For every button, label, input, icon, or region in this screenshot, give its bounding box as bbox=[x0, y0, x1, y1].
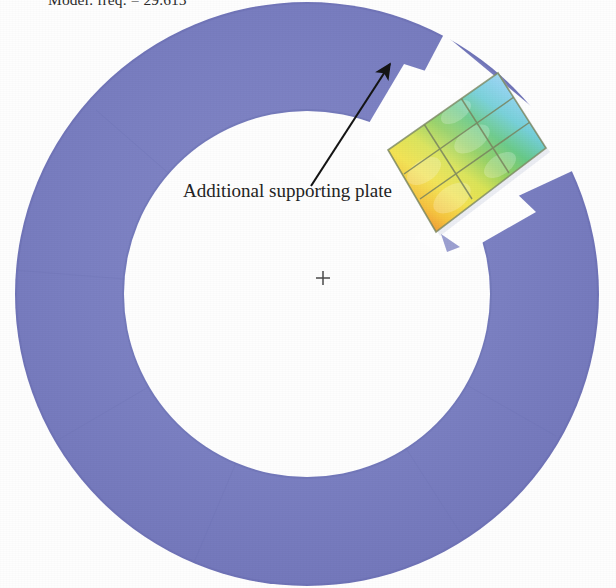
figure-canvas: Model: freq. = 29.615 Additional support… bbox=[0, 0, 616, 588]
plate-annotation-label: Additional supporting plate bbox=[183, 180, 392, 202]
figure-caption: Model: freq. = 29.615 bbox=[48, 0, 187, 9]
model-graphic bbox=[0, 0, 616, 588]
annulus-ring bbox=[0, 0, 616, 588]
